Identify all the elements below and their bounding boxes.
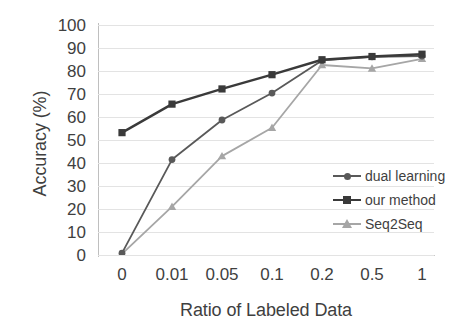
data-point — [169, 156, 176, 163]
data-point — [269, 90, 276, 97]
legend-label: our method — [365, 192, 436, 208]
x-tick-label: 0.2 — [310, 266, 334, 283]
x-axis-title: Ratio of Labeled Data — [96, 300, 436, 321]
data-point — [418, 51, 425, 58]
data-point — [219, 117, 226, 124]
y-tick-label: 70 — [67, 86, 86, 103]
y-tick-label: 100 — [58, 17, 86, 34]
y-tick-label: 10 — [67, 224, 86, 241]
chart-figure: Accuracy (%) Ratio of Labeled Data 01020… — [0, 0, 476, 331]
y-tick-label: 40 — [67, 155, 86, 172]
legend-item[interactable]: our method — [333, 188, 465, 212]
data-point — [168, 101, 175, 108]
data-point — [318, 56, 325, 63]
x-tick-label: 1 — [417, 266, 426, 283]
data-point — [218, 152, 226, 159]
legend-swatch — [333, 218, 361, 230]
legend-marker-circle-icon — [344, 173, 351, 180]
legend-label: Seq2Seq — [365, 216, 423, 232]
x-axis-tick-labels: 00.010.050.10.20.51 — [0, 266, 476, 290]
legend-swatch — [333, 194, 361, 206]
legend-item[interactable]: Seq2Seq — [333, 212, 465, 236]
x-tick-label: 0.05 — [205, 266, 238, 283]
legend-swatch — [333, 170, 361, 182]
data-point — [268, 71, 275, 78]
legend-label: dual learning — [365, 168, 445, 184]
y-tick-label: 80 — [67, 63, 86, 80]
y-tick-label: 50 — [67, 132, 86, 149]
x-tick-label: 0.1 — [260, 266, 284, 283]
gridline — [98, 255, 434, 256]
x-tick-label: 0.01 — [155, 266, 188, 283]
legend-marker-square-icon — [343, 196, 351, 204]
legend-item[interactable]: dual learning — [333, 164, 465, 188]
data-point — [118, 129, 125, 136]
x-tick-label: 0.5 — [360, 266, 384, 283]
x-tick-label: 0 — [117, 266, 126, 283]
y-tick-label: 0 — [77, 247, 86, 264]
y-tick-label: 90 — [67, 40, 86, 57]
data-point — [368, 53, 375, 60]
y-tick-label: 30 — [67, 178, 86, 195]
legend-marker-triangle-icon — [342, 219, 352, 228]
data-point — [218, 85, 225, 92]
y-tick-label: 20 — [67, 201, 86, 218]
y-tick-label: 60 — [67, 109, 86, 126]
chart-legend: dual learningour methodSeq2Seq — [333, 164, 465, 236]
